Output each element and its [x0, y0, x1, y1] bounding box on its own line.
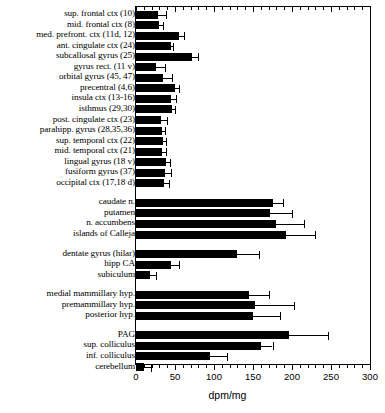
bar	[136, 74, 163, 82]
bar-row: sup. frontal ctx (10)	[0, 9, 385, 20]
x-tick-major	[292, 365, 293, 370]
x-tick-minor-top	[167, 7, 168, 10]
error-bar-cap	[166, 138, 167, 146]
bar	[136, 169, 165, 177]
bar	[136, 63, 156, 71]
x-tick-minor-top	[339, 7, 340, 10]
bar	[136, 250, 237, 258]
error-bar-cap	[171, 169, 172, 177]
bar-row: n. accumbens	[0, 218, 385, 229]
error-bar-line	[158, 15, 166, 16]
x-tick-major-top	[175, 7, 176, 12]
error-bar-cap	[169, 180, 170, 188]
bar	[136, 32, 179, 40]
x-tick-major-top	[331, 7, 332, 12]
x-tick-major-top	[370, 7, 371, 12]
bar-row: putamen	[0, 208, 385, 219]
error-bar-cap	[280, 312, 281, 320]
x-tick-minor	[167, 365, 168, 368]
bar	[136, 95, 171, 103]
error-bar-line	[276, 224, 303, 225]
x-tick-minor	[354, 365, 355, 368]
bar-row-label: precentral (4,6)	[80, 82, 135, 93]
x-tick-minor	[191, 365, 192, 368]
error-bar-cap	[173, 43, 174, 51]
x-tick-minor	[362, 365, 363, 368]
x-tick-minor	[222, 365, 223, 368]
bar-row-label: PAG	[118, 329, 135, 340]
x-tick-minor	[300, 365, 301, 368]
bar-row: islands of Calleja	[0, 229, 385, 240]
x-tick-minor-top	[300, 7, 301, 10]
x-tick-major	[175, 365, 176, 370]
error-bar-line	[253, 316, 280, 317]
error-bar-cap	[166, 11, 167, 19]
x-tick-minor-top	[159, 7, 160, 10]
bar-row: orbital gyrus (45, 47)	[0, 72, 385, 83]
bar-row: precentral (4,6)	[0, 83, 385, 94]
x-tick-minor	[152, 365, 153, 368]
x-tick-label: 150	[245, 371, 261, 382]
bar-row-label: medial mammillary hyp.	[47, 288, 135, 299]
x-tick-major-top	[253, 7, 254, 12]
x-tick-minor	[159, 365, 160, 368]
x-tick-major	[214, 365, 215, 370]
bar	[136, 42, 171, 50]
error-bar-cap	[170, 159, 171, 167]
bar-row: caudate n.	[0, 197, 385, 208]
error-bar-line	[286, 235, 316, 236]
error-bar-cap	[259, 251, 260, 259]
x-tick-major	[136, 365, 137, 370]
x-tick-minor-top	[144, 7, 145, 10]
bar-row: occipital ctx (17,18 d)	[0, 178, 385, 189]
bar	[136, 179, 164, 187]
bar	[136, 331, 289, 339]
bar-row: lingual gyrus (18 v)	[0, 157, 385, 168]
x-axis-title: dpm/mg	[0, 389, 385, 401]
x-tick-minor-top	[237, 7, 238, 10]
error-bar-cap	[292, 210, 293, 218]
bar-row-label: lingual gyrus (18 v)	[64, 156, 135, 167]
x-tick-major	[331, 365, 332, 370]
x-tick-major-top	[214, 7, 215, 12]
bar	[136, 11, 158, 19]
x-tick-minor	[261, 365, 262, 368]
bar-row-label: sup. temporal ctx (22)	[56, 135, 135, 146]
bar-row: insula ctx (13-16)	[0, 93, 385, 104]
bar	[136, 21, 159, 29]
x-tick-minor-top	[269, 7, 270, 10]
x-tick-major-top	[136, 7, 137, 12]
bar-row-label: putamen	[104, 207, 135, 218]
x-tick-minor-top	[308, 7, 309, 10]
bar-row-label: med. prefront. ctx (11d, 12)	[36, 29, 135, 40]
bar	[136, 148, 162, 156]
x-tick-minor-top	[198, 7, 199, 10]
x-axis-title-text: dpm/mg	[209, 389, 247, 401]
error-bar-cap	[269, 291, 270, 299]
bar	[136, 342, 261, 350]
bar-row-label: mid. frontal ctx (8)	[67, 19, 135, 30]
bar-row-label: subcallosal gyrus (25)	[56, 50, 135, 61]
bar	[136, 352, 210, 360]
bar	[136, 116, 161, 124]
error-bar-cap	[184, 32, 185, 40]
error-bar-cap	[198, 53, 199, 61]
bar-row-label: post. cingulate ctx (23)	[53, 114, 135, 125]
x-tick-minor-top	[222, 7, 223, 10]
bar-row: mid. temporal ctx (21)	[0, 146, 385, 157]
bar-row-label: posterior hyp.	[85, 309, 135, 320]
bar	[136, 84, 175, 92]
bar-chart: sup. frontal ctx (10)mid. frontal ctx (8…	[0, 0, 385, 413]
bar	[136, 137, 163, 145]
x-tick-minor-top	[261, 7, 262, 10]
x-tick-label: 300	[362, 371, 378, 382]
bar-row: sup. colliculus	[0, 340, 385, 351]
bar-row-label: sup. frontal ctx (10)	[64, 8, 135, 19]
error-bar-cap	[315, 231, 316, 239]
error-bar-cap	[273, 342, 274, 350]
bar	[136, 312, 253, 320]
x-tick-minor-top	[206, 7, 207, 10]
error-bar-cap	[156, 272, 157, 280]
error-bar-line	[270, 213, 292, 214]
error-bar-line	[261, 346, 273, 347]
